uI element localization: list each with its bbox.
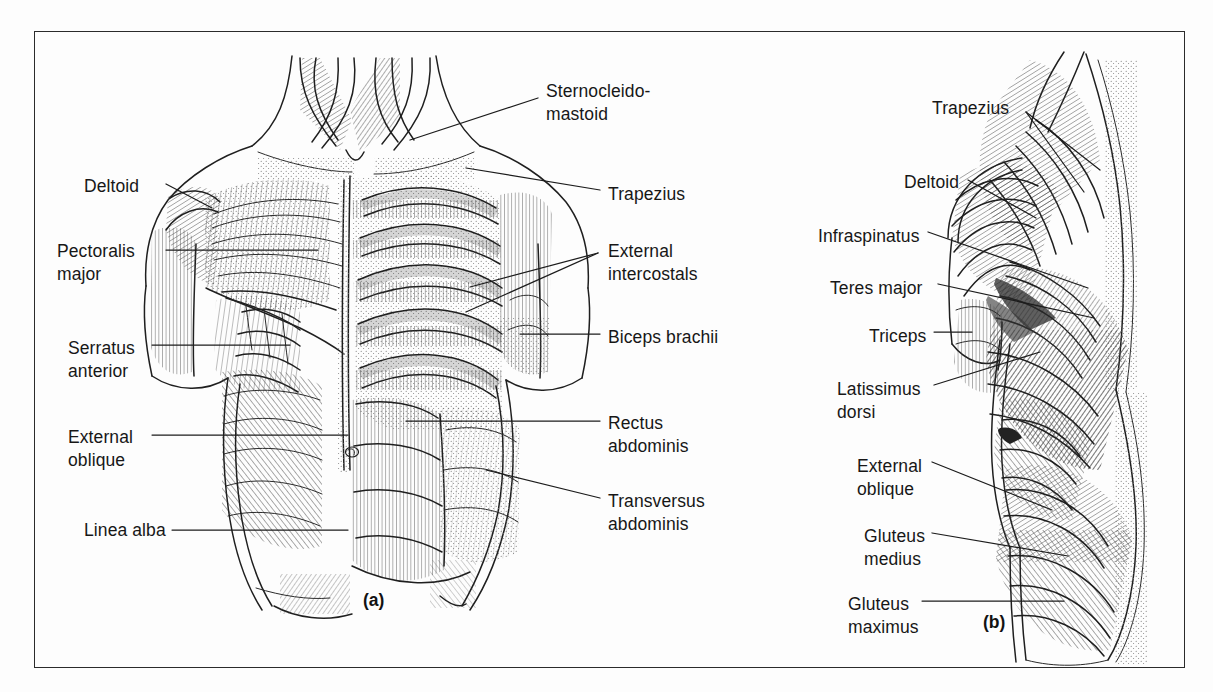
label-biceps-brachii-a: Biceps brachii	[608, 326, 718, 349]
label-infraspinatus-b: Infraspinatus	[818, 225, 920, 248]
anatomy-figure: Deltoid Pectoralis major Serratus anteri…	[0, 0, 1213, 692]
label-external-oblique-a: External oblique	[68, 426, 133, 472]
label-triceps-b: Triceps	[869, 325, 926, 348]
label-trapezius-b: Trapezius	[932, 97, 1009, 120]
label-gluteus-medius-b: Gluteus medius	[864, 525, 925, 571]
label-deltoid-a: Deltoid	[84, 175, 139, 198]
label-external-oblique-b: External oblique	[857, 455, 922, 501]
label-external-intercostals-a: External intercostals	[608, 240, 698, 286]
figure-border	[34, 31, 1185, 668]
label-gluteus-maximus-b: Gluteus maximus	[848, 593, 919, 639]
label-trapezius-a: Trapezius	[608, 183, 685, 206]
label-linea-alba-a: Linea alba	[84, 519, 166, 542]
label-serratus-anterior-a: Serratus anterior	[68, 337, 135, 383]
label-rectus-abdominis-a: Rectus abdominis	[608, 412, 689, 458]
label-pectoralis-major-a: Pectoralis major	[57, 240, 135, 286]
label-latissimus-dorsi-b: Latissimus dorsi	[837, 378, 921, 424]
label-deltoid-b: Deltoid	[904, 171, 959, 194]
panel-a-caption: (a)	[363, 590, 384, 611]
label-transversus-abdominis-a: Transversus abdominis	[608, 490, 705, 536]
label-sternocleidomastoid-a: Sternocleido- mastoid	[546, 80, 650, 126]
panel-b-caption: (b)	[983, 612, 1005, 633]
label-teres-major-b: Teres major	[830, 277, 923, 300]
